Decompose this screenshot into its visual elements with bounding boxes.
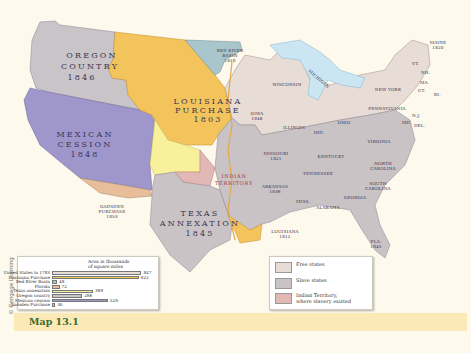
label-red-river-year: 1818 bbox=[224, 58, 236, 63]
label-louisiana-state-year: 1812 bbox=[279, 234, 291, 239]
label-nj: N.J. bbox=[412, 113, 420, 118]
label-mexican-year: 1848 bbox=[70, 150, 99, 159]
label-new-york: NEW YORK bbox=[375, 87, 402, 92]
label-ma: MA. bbox=[420, 80, 429, 85]
label-texas-year: 1845 bbox=[185, 229, 214, 238]
label-pennsylvania: PENNSYLVANIA bbox=[368, 106, 406, 111]
label-ohio: OHIO bbox=[338, 120, 351, 125]
label-gadsden-year: 1853 bbox=[106, 214, 118, 219]
label-tennessee: TENNESSEE bbox=[303, 171, 333, 176]
chart-bar bbox=[52, 280, 57, 284]
label-oregon: OREGON bbox=[66, 51, 118, 60]
area-bar-chart: Area in thousands of square miles United… bbox=[17, 256, 159, 310]
label-mexican-2: CESSION bbox=[58, 140, 113, 149]
chart-bar bbox=[52, 285, 60, 289]
label-maine-year: 1820 bbox=[432, 45, 444, 50]
legend-swatch-indian bbox=[275, 293, 292, 304]
legend-swatch-slave bbox=[275, 278, 292, 289]
label-indian: INDIAN bbox=[221, 173, 246, 179]
legend-item-slave-states: Slave states bbox=[275, 278, 370, 290]
label-arkansas-year: 1836 bbox=[269, 189, 281, 194]
map-caption: Map 13.1 bbox=[29, 316, 79, 327]
label-ri: RI. bbox=[434, 92, 441, 97]
label-texas-2: ANNEXATION bbox=[159, 219, 240, 228]
label-wisconsin: WISCONSIN bbox=[272, 82, 301, 87]
caption-bar: Map 13.1 bbox=[14, 313, 467, 331]
chart-bar-value: 30 bbox=[57, 303, 62, 307]
label-virginia: VIRGINIA bbox=[367, 139, 392, 144]
label-nh: NH. bbox=[421, 70, 430, 75]
label-louisiana: LOUISIANA bbox=[174, 97, 243, 106]
label-louisiana-2: PURCHASE bbox=[175, 106, 241, 115]
chart-bar bbox=[52, 271, 141, 275]
label-oregon-2: COUNTRY bbox=[61, 62, 119, 71]
label-alabama: ALABAMA bbox=[315, 205, 340, 210]
label-oregon-year: 1846 bbox=[67, 73, 96, 82]
label-texas: TEXAS bbox=[181, 209, 220, 218]
label-ct: CT. bbox=[418, 88, 425, 93]
copyright-credit: © Cengage Learning bbox=[8, 257, 14, 314]
label-fla-year: 1845 bbox=[370, 244, 382, 249]
label-del: DEL. bbox=[414, 123, 425, 128]
legend-swatch-free bbox=[275, 262, 292, 273]
chart-bar bbox=[52, 276, 139, 280]
label-iowa-year: 1846 bbox=[251, 116, 263, 121]
chart-bar bbox=[52, 303, 55, 307]
legend-label-slave: Slave states bbox=[296, 278, 326, 284]
label-nc-2: CAROLINA bbox=[370, 166, 396, 171]
legend-label-indian: Indian Territory, where slavery existed bbox=[296, 293, 351, 304]
label-mexican: MEXICAN bbox=[56, 130, 113, 139]
legend-item-free-states: Free states bbox=[275, 262, 370, 274]
label-illinois: ILLINOIS bbox=[283, 125, 305, 130]
legend-label-free: Free states bbox=[296, 262, 324, 268]
label-sc-2: CAROLINA bbox=[365, 186, 391, 191]
legend-item-indian-territory: Indian Territory, where slavery existed bbox=[275, 293, 370, 305]
label-vt: VT. bbox=[411, 61, 419, 66]
label-louisiana-year: 1803 bbox=[193, 115, 222, 124]
map-legend: Free states Slave states Indian Territor… bbox=[269, 256, 373, 310]
label-ind: IND. bbox=[314, 130, 325, 135]
label-missouri-year: 1821 bbox=[270, 156, 282, 161]
chart-title-line2: of square miles bbox=[88, 264, 129, 269]
chart-row-label: Gadsden Purchase bbox=[10, 303, 50, 307]
chart-row: Gadsden Purchase30 bbox=[18, 303, 158, 307]
label-kentucky: KENTUCKY bbox=[318, 154, 345, 159]
label-indian-2: TERRITORY bbox=[215, 180, 253, 186]
chart-title: Area in thousands of square miles bbox=[88, 259, 129, 269]
label-miss: MISS. bbox=[296, 199, 310, 204]
label-md: MD. bbox=[402, 120, 411, 125]
label-georgia: GEORGIA bbox=[344, 195, 367, 200]
legend-label-indian-2: where slavery existed bbox=[296, 299, 351, 305]
chart-bar bbox=[52, 294, 82, 298]
